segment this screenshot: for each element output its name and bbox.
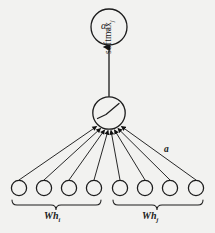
softmax-label-base: softmax (103, 22, 113, 54)
input-nodes (11, 180, 203, 195)
attention-mechanism-figure: αij softmaxj a Whi Whj (0, 0, 215, 233)
brace-right (113, 200, 203, 210)
group-right-base: Wh (142, 210, 156, 221)
attention-edge-8 (122, 127, 197, 181)
group-left-subscript: i (58, 216, 60, 223)
input-node-8 (188, 180, 203, 195)
input-node-2 (36, 180, 51, 195)
softmax-label-subscript: j (109, 20, 115, 22)
attention-edge-4 (94, 131, 108, 180)
input-node-7 (162, 180, 177, 195)
brace-left (12, 200, 101, 210)
attention-edges (19, 127, 196, 181)
attention-edge-5 (111, 131, 120, 180)
group-left-base: Wh (44, 210, 58, 221)
softmax-label: softmaxj (104, 20, 116, 54)
input-node-1 (11, 180, 26, 195)
attention-vector-label: a (164, 145, 169, 155)
attention-edge-2 (44, 129, 101, 181)
input-node-4 (86, 180, 101, 195)
input-node-3 (61, 180, 76, 195)
attention-edge-1 (19, 127, 97, 181)
activation-node (93, 97, 125, 129)
group-label-right: Whj (142, 211, 158, 223)
attention-edge-3 (69, 130, 105, 180)
group-right-subscript: j (156, 216, 158, 223)
input-node-6 (137, 180, 152, 195)
input-node-5 (112, 180, 127, 195)
group-label-left: Whi (44, 211, 60, 223)
attention-edge-7 (118, 129, 170, 181)
